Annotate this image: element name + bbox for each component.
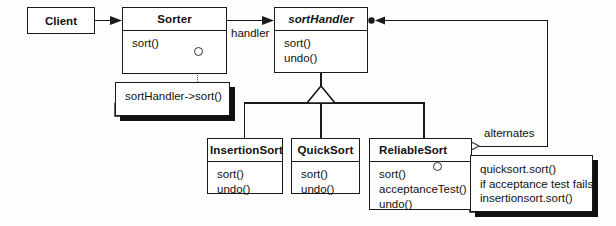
operation-sorter-sort: sort() (132, 36, 218, 51)
class-box-insertionsort[interactable]: InsertionSort sort() undo() (207, 138, 283, 194)
generalization-drop-insertionsort (244, 102, 246, 138)
note-reliablesort-wrapper[interactable]: quicksort.sort() if acceptance test fail… (470, 155, 593, 212)
edge-label-handler: handler (229, 27, 271, 39)
note-reliablesort: quicksort.sort() if acceptance test fail… (470, 155, 593, 212)
generalization-bus (244, 102, 424, 104)
note-sorter-wrapper[interactable]: sortHandler->sort() (115, 82, 230, 116)
class-box-sorter[interactable]: Sorter sort() (122, 7, 227, 74)
edge-alternates-horizontal-upper (383, 20, 548, 22)
operation-quicksort-sort: sort() (301, 167, 351, 182)
class-box-sorthandler[interactable]: sortHandler sort() undo() (274, 7, 368, 73)
lollipop-icon-sorter-sort (194, 47, 203, 56)
edge-client-to-sorter (95, 20, 113, 22)
class-operations-insertionsort: sort() undo() (208, 162, 282, 202)
operation-quicksort-undo: undo() (301, 182, 351, 197)
note-reliablesort-line-3: insertionsort.sort() (480, 191, 584, 206)
edge-alternates-horizontal-lower (479, 146, 548, 148)
class-name-sorthandler: sortHandler (275, 8, 367, 31)
generalization-drop-quicksort (320, 102, 322, 138)
class-name-sorter: Sorter (123, 8, 226, 31)
generalization-drop-reliablesort (423, 102, 425, 138)
operation-insertionsort-undo: undo() (217, 182, 274, 197)
class-name-client: Client (45, 15, 77, 27)
lollipop-icon-reliablesort-sort (433, 162, 442, 171)
class-operations-sorthandler: sort() undo() (275, 31, 367, 71)
class-box-client[interactable]: Client (27, 7, 95, 34)
class-name-insertionsort: InsertionSort (208, 139, 282, 162)
operation-sorthandler-sort: sort() (284, 36, 359, 51)
edge-sorter-to-sorthandler (227, 20, 264, 22)
note-sorter: sortHandler->sort() (115, 82, 230, 116)
class-name-reliablesort: ReliableSort (370, 139, 471, 162)
operation-insertionsort-sort: sort() (217, 167, 274, 182)
uml-class-diagram: handler alternates Client Sorter sort() … (0, 0, 616, 226)
class-box-reliablesort[interactable]: ReliableSort sort() acceptanceTest() und… (369, 138, 472, 210)
class-box-quicksort[interactable]: QuickSort sort() undo() (291, 138, 360, 194)
association-end-dot (368, 17, 374, 23)
class-operations-sorter: sort() (123, 31, 226, 56)
note-reliablesort-line-1: quicksort.sort() (480, 162, 584, 177)
operation-reliablesort-undo: undo() (379, 197, 463, 212)
note-reliablesort-line-2: if acceptance test fails (480, 177, 584, 192)
class-operations-quicksort: sort() undo() (292, 162, 359, 202)
operation-sorthandler-undo: undo() (284, 51, 359, 66)
class-operations-reliablesort: sort() acceptanceTest() undo() (370, 162, 471, 217)
edge-alternates-vertical (547, 20, 549, 146)
edge-label-alternates: alternates (482, 127, 537, 139)
note-sorter-line-1: sortHandler->sort() (125, 89, 221, 104)
class-name-quicksort: QuickSort (292, 139, 359, 162)
operation-reliablesort-sort: sort() (379, 167, 463, 182)
generalization-triangle (307, 86, 335, 103)
operation-reliablesort-acceptancetest: acceptanceTest() (379, 182, 463, 197)
generalization-stem (320, 73, 322, 87)
